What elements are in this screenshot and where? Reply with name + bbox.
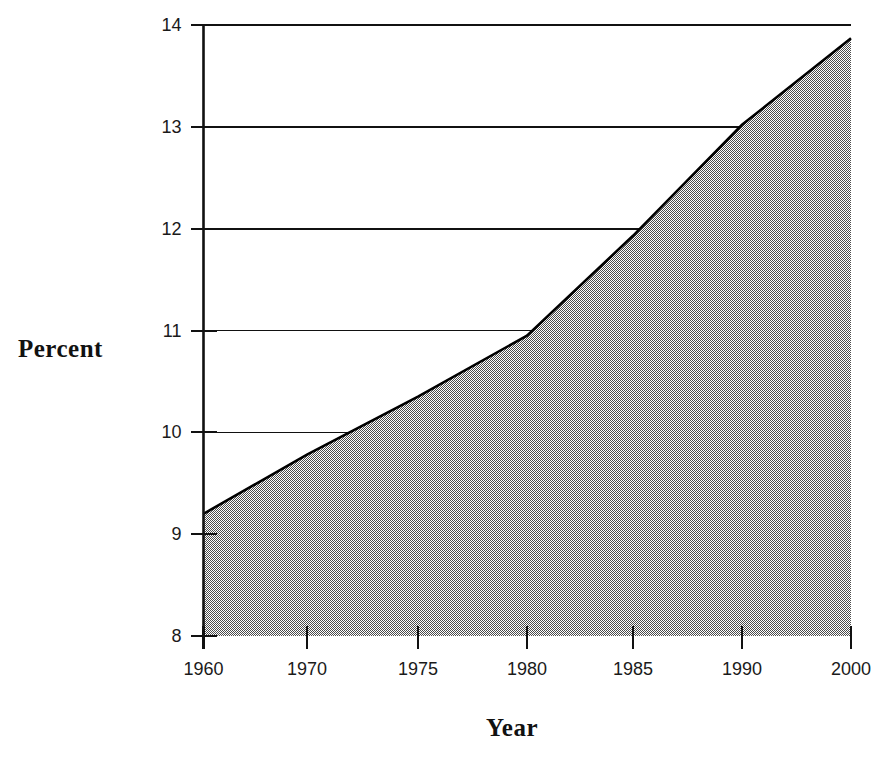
y-tick-label: 12 — [161, 218, 181, 239]
y-tick-label: 11 — [163, 320, 182, 341]
y-tick-label: 14 — [161, 15, 181, 36]
chart-figure: Percent Year 891011121314 19601970197519… — [0, 0, 891, 764]
y-axis-title: Percent — [18, 335, 103, 363]
x-tick-label: 1990 — [722, 659, 762, 680]
x-tick-label: 1980 — [507, 659, 547, 680]
y-tick-label: 13 — [161, 116, 181, 137]
x-tick-label: 1960 — [183, 659, 223, 680]
x-tick-label: 1985 — [613, 659, 653, 680]
y-tick-label: 9 — [171, 524, 181, 545]
x-tick-label: 1970 — [287, 659, 327, 680]
area-chart — [0, 0, 891, 764]
x-axis-title: Year — [486, 714, 538, 742]
x-tick-label: 2000 — [831, 659, 871, 680]
y-tick-label: 10 — [161, 422, 181, 443]
x-tick-label: 1975 — [398, 659, 438, 680]
area-fill-region — [204, 38, 852, 636]
y-tick-label: 8 — [171, 626, 181, 647]
